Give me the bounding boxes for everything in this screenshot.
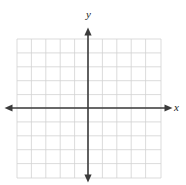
y-axis-arrow-up-icon: [84, 28, 91, 36]
y-axis: [84, 28, 91, 183]
x-axis-label: x: [174, 102, 179, 113]
coordinate-plane-figure: y x: [0, 0, 186, 185]
x-axis-arrow-left-icon: [5, 104, 13, 111]
coordinate-plane-svg: [0, 0, 186, 185]
y-axis-arrow-down-icon: [84, 175, 91, 183]
y-axis-label: y: [86, 9, 91, 20]
x-axis-arrow-right-icon: [165, 104, 173, 111]
